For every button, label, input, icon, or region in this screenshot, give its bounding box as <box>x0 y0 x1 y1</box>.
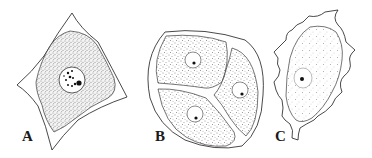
cell-b <box>148 31 263 148</box>
cell-b-nucleus-3 <box>187 106 203 122</box>
cell-b-nucleus-1 <box>185 52 201 68</box>
panel-label-c: C <box>275 128 286 145</box>
panel-label-b: B <box>155 128 165 145</box>
panel-label-a: A <box>22 128 33 145</box>
cell-illustration <box>0 0 372 158</box>
cell-a <box>17 13 127 150</box>
cell-b-nucleus-2 <box>232 82 248 98</box>
cell-c <box>274 10 355 140</box>
